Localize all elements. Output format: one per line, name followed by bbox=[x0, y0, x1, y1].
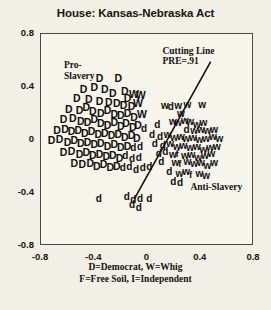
data-point-D: D bbox=[78, 159, 86, 170]
y-tick-label: -0.4 bbox=[0, 186, 34, 197]
data-point-D: D bbox=[69, 113, 77, 124]
data-point-D: D bbox=[48, 135, 56, 146]
data-point-d: d bbox=[129, 200, 135, 210]
legend-caption-line-1: D=Democrat, W=Whig bbox=[0, 262, 271, 274]
data-point-d: d bbox=[137, 142, 143, 152]
y-tick-label: 0.4 bbox=[0, 80, 34, 91]
data-point-f: f bbox=[189, 170, 192, 180]
data-point-w: w bbox=[202, 171, 210, 181]
data-point-D: D bbox=[101, 84, 109, 95]
data-point-d: d bbox=[122, 151, 128, 161]
data-point-d: d bbox=[133, 165, 139, 175]
x-tick-label: 0.8 bbox=[233, 251, 271, 262]
data-point-D: D bbox=[73, 93, 81, 104]
y-tick-label: 0 bbox=[0, 133, 34, 144]
y-tick-label: 0.8 bbox=[0, 27, 34, 38]
data-point-d: d bbox=[96, 194, 102, 204]
data-point-w: w bbox=[210, 158, 218, 168]
data-point-d: d bbox=[136, 153, 142, 163]
x-tick-label: -0.4 bbox=[73, 251, 113, 262]
data-point-D: D bbox=[90, 82, 98, 93]
data-point-w: w bbox=[198, 100, 206, 110]
data-point-D: D bbox=[114, 73, 122, 84]
x-tick-label: 0 bbox=[127, 251, 167, 262]
data-point-D: D bbox=[60, 147, 68, 158]
legend-caption-line-2: F=Free Soil, I=Independent bbox=[0, 274, 271, 286]
data-point-d: d bbox=[168, 102, 174, 112]
data-point-d: d bbox=[120, 163, 126, 173]
data-point-d: d bbox=[136, 203, 142, 213]
x-tick-label: 0.4 bbox=[180, 251, 220, 262]
chart-figure: House: Kansas-Nebraska Act 0.80.40-0.4-0… bbox=[0, 0, 271, 310]
x-tick-label: -0.8 bbox=[20, 251, 60, 262]
data-point-W: W bbox=[137, 109, 147, 120]
data-point-d: d bbox=[146, 162, 152, 172]
y-tick-label: -0.8 bbox=[0, 239, 34, 250]
data-point-d: d bbox=[177, 178, 183, 188]
data-point-d: d bbox=[158, 157, 164, 167]
chart-title: House: Kansas-Nebraska Act bbox=[0, 7, 271, 19]
data-point-D: D bbox=[70, 158, 78, 169]
data-point-d: d bbox=[140, 163, 146, 173]
anti-slavery-label: Anti-Slavery bbox=[190, 182, 242, 193]
data-point-d: d bbox=[170, 177, 176, 187]
data-point-d: d bbox=[126, 162, 132, 172]
data-point-D: D bbox=[56, 134, 64, 145]
cutting-line-label: Cutting LinePRE=.91 bbox=[162, 46, 214, 67]
data-point-d: d bbox=[141, 124, 147, 134]
data-point-D: D bbox=[68, 146, 76, 157]
data-point-d: d bbox=[154, 120, 160, 130]
data-point-d: d bbox=[146, 194, 152, 204]
pro-slavery-label: Pro-Slavery bbox=[64, 60, 95, 81]
